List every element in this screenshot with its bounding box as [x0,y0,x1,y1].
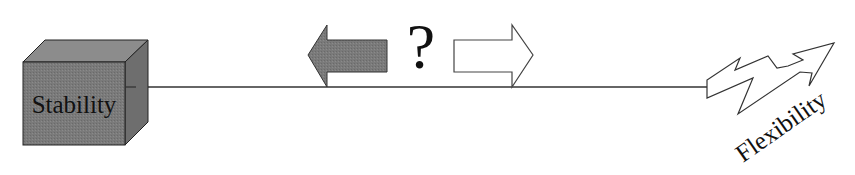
stability-flexibility-diagram: Stability ? Flexibility [0,0,855,175]
arrow-left-icon [308,25,387,87]
question-mark: ? [407,11,435,82]
stability-label: Stability [32,91,117,118]
arrow-right-icon [454,25,533,87]
